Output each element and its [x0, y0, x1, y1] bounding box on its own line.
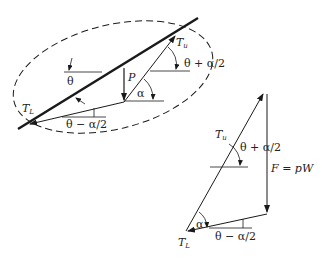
- theta-plus-arc: [168, 47, 176, 69]
- tri-label-alpha: α: [196, 218, 204, 231]
- label-alpha: α: [137, 87, 145, 100]
- force-triangle: Tu θ + α/2 F = pW α θ − α/2 TL: [178, 94, 315, 250]
- tri-label-theta-plus: θ + α/2: [240, 141, 281, 154]
- label-t-lower: TL: [22, 102, 34, 116]
- tri-label-t-upper: Tu: [215, 128, 227, 142]
- triangle-upper-tension: [186, 94, 263, 231]
- label-theta-minus: θ − α/2: [66, 118, 107, 131]
- tri-label-force: F = pW: [270, 162, 315, 175]
- belt-force-diagram: Tu θ + α/2 P α θ TL θ − α/2 Tu θ + α/2 F…: [0, 0, 322, 265]
- tri-label-theta-minus: θ − α/2: [215, 230, 256, 243]
- theta-pointer: [69, 58, 72, 70]
- upper-tension-vector: [124, 36, 175, 102]
- label-t-upper: Tu: [176, 36, 188, 50]
- free-body-diagram: Tu θ + α/2 P α θ TL θ − α/2: [1, 2, 225, 152]
- tri-label-t-lower: TL: [178, 236, 190, 250]
- label-theta: θ: [67, 75, 74, 88]
- label-theta-plus: θ + α/2: [184, 57, 225, 70]
- label-p: P: [127, 71, 136, 84]
- tri-theta-plus-arc: [229, 144, 240, 165]
- boundary-ellipse: [1, 2, 224, 152]
- belt-line: [18, 18, 198, 129]
- belt-pointer: [76, 98, 85, 104]
- alpha-arc: [144, 79, 153, 99]
